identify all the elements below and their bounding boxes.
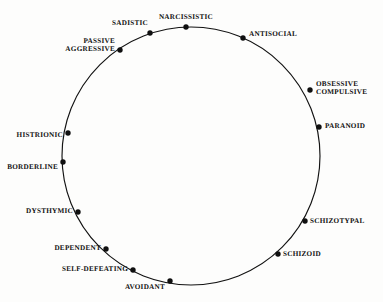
node-dot[interactable] xyxy=(167,278,172,283)
node-label[interactable]: DEPENDENT xyxy=(54,245,101,253)
node-dot[interactable] xyxy=(240,35,245,40)
node-dot[interactable] xyxy=(130,267,135,272)
node-label[interactable]: HISTRIONIC xyxy=(17,132,63,140)
node-label[interactable]: PASSIVE AGGRESSIVE xyxy=(65,38,115,53)
node-label[interactable]: SADISTIC xyxy=(112,20,148,28)
node-dot[interactable] xyxy=(307,87,312,92)
node-dot[interactable] xyxy=(117,47,122,52)
circumplex-svg xyxy=(0,0,383,302)
node-dot[interactable] xyxy=(302,218,307,223)
node-label[interactable]: DYSTHYMIC xyxy=(26,208,73,216)
node-dot[interactable] xyxy=(60,159,65,164)
node-dot[interactable] xyxy=(275,251,280,256)
node-label[interactable]: SCHIZOID xyxy=(283,251,321,259)
node-label[interactable]: AVOIDANT xyxy=(125,284,165,292)
node-dot[interactable] xyxy=(183,24,188,29)
node-dot[interactable] xyxy=(147,30,152,35)
node-dot[interactable] xyxy=(103,246,108,251)
node-dot[interactable] xyxy=(316,124,321,129)
node-label[interactable]: BORDERLINE xyxy=(7,164,58,172)
node-dot[interactable] xyxy=(65,130,70,135)
node-label[interactable]: PARANOID xyxy=(325,123,365,131)
personality-circumplex-figure: NARCISSISTICANTISOCIALOBSESSIVE COMPULSI… xyxy=(0,0,383,302)
node-label[interactable]: ANTISOCIAL xyxy=(249,31,297,39)
node-label[interactable]: OBSESSIVE COMPULSIVE xyxy=(316,81,367,96)
node-label[interactable]: SELF-DEFEATING xyxy=(62,266,128,274)
node-dot[interactable] xyxy=(75,209,80,214)
node-label[interactable]: NARCISSISTIC xyxy=(159,14,213,22)
node-label[interactable]: SCHIZOTYPAL xyxy=(310,218,365,226)
